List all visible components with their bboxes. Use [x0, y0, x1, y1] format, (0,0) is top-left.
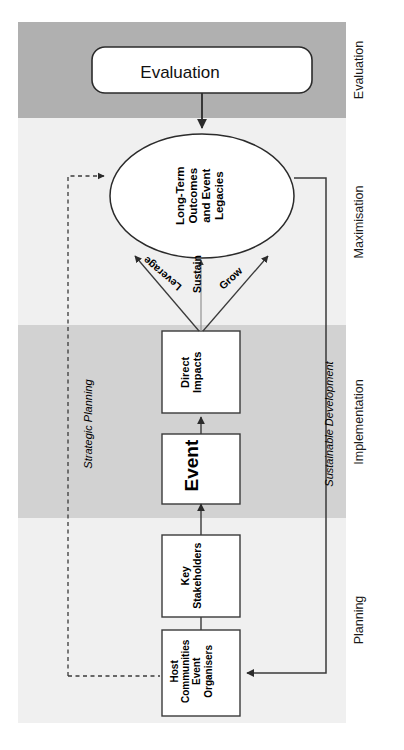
figure-container: Evaluation Long-Term Outcomes and Event … [0, 0, 404, 750]
phase-label-evaluation: Evaluation [352, 0, 366, 145]
connector-leverage [135, 256, 199, 331]
node-host-communities-shape [162, 630, 240, 716]
phase-label-planning: Planning [352, 545, 366, 695]
connector-sustainable-development-loop [247, 178, 326, 673]
node-event-shape [162, 434, 240, 504]
connector-strategic-planning-loop [68, 176, 104, 676]
diagram-canvas [0, 0, 404, 750]
connector-grow [203, 256, 268, 331]
phase-label-implementation: Implementation [352, 347, 366, 497]
node-evaluation-shape [92, 47, 312, 93]
phase-label-maximisation: Maximisation [352, 147, 366, 297]
node-outcomes-shape [110, 134, 294, 258]
node-direct-impacts-shape [162, 331, 240, 413]
node-key-stakeholders-shape [162, 535, 240, 617]
